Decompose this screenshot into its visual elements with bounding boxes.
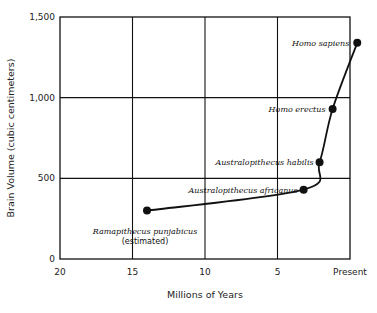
x-tick-label: 10 <box>199 267 211 277</box>
x-tick-label: Present <box>333 267 367 277</box>
point-label: Homo erectus <box>268 105 326 114</box>
x-tick-label: 5 <box>275 267 281 277</box>
y-tick-label: 500 <box>38 173 55 183</box>
data-point <box>300 186 308 194</box>
point-labels: Ramapithecus punjabicus(estimated)Austra… <box>92 39 350 246</box>
y-tick-label: 0 <box>49 254 55 264</box>
data-point <box>316 158 324 166</box>
y-axis-ticks: 05001,0001,500 <box>29 12 55 264</box>
y-tick-label: 1,500 <box>29 12 55 22</box>
point-label: Ramapithecus punjabicus <box>92 227 198 236</box>
point-label: Homo sapiens <box>291 39 349 48</box>
x-tick-label: 15 <box>127 267 138 277</box>
brain-volume-chart: 05001,0001,500 2015105Present Ramapithec… <box>0 0 377 313</box>
data-point <box>329 105 337 113</box>
data-point <box>143 207 151 215</box>
point-sublabel: (estimated) <box>122 237 169 246</box>
x-axis-label: Millions of Years <box>167 289 243 300</box>
grid <box>60 17 350 259</box>
y-tick-label: 1,000 <box>29 93 55 103</box>
point-label: Australopithecus africanus <box>188 186 298 195</box>
point-label: Australopithecus habilis <box>214 158 313 167</box>
x-tick-label: 20 <box>54 267 66 277</box>
data-point <box>353 39 361 47</box>
y-axis-label: Brain Volume (cubic centimeters) <box>5 59 16 218</box>
x-axis-ticks: 2015105Present <box>54 267 367 277</box>
